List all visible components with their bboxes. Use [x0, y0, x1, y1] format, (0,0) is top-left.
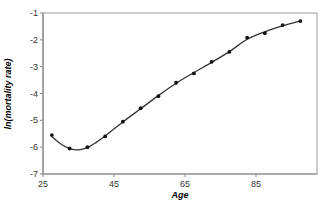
data-point — [210, 60, 214, 64]
y-axis-title: ln(mortality rate) — [3, 58, 13, 129]
x-tick-label: 45 — [109, 179, 119, 189]
data-point — [245, 36, 249, 40]
data-point — [139, 106, 143, 110]
plot-border — [43, 13, 317, 174]
data-point — [298, 19, 302, 23]
data-series — [50, 19, 302, 150]
data-point — [103, 135, 107, 139]
mortality-chart: -7-6-5-4-3-2-1 25456585 Age ln(mortality… — [0, 0, 330, 216]
data-point — [263, 31, 267, 35]
x-tick-label: 65 — [180, 179, 190, 189]
y-tick-label: -2 — [30, 35, 38, 45]
data-point — [121, 120, 125, 124]
y-tick-label: -6 — [30, 142, 38, 152]
y-tick-label: -1 — [30, 8, 38, 18]
data-point — [85, 145, 89, 149]
y-tick-label: -3 — [30, 62, 38, 72]
x-tick-label: 85 — [251, 179, 261, 189]
data-point — [174, 81, 178, 85]
data-point — [281, 23, 285, 27]
data-point — [192, 71, 196, 75]
fitted-curve — [52, 21, 301, 150]
y-tick-label: -4 — [30, 89, 38, 99]
x-axis-title: Age — [170, 190, 188, 200]
y-axis: -7-6-5-4-3-2-1 — [30, 8, 43, 179]
x-tick-label: 25 — [38, 179, 48, 189]
data-point — [227, 50, 231, 54]
data-point — [156, 94, 160, 98]
x-axis: 25456585 — [38, 174, 261, 189]
y-tick-label: -7 — [30, 169, 38, 179]
data-point — [68, 147, 72, 151]
y-tick-label: -5 — [30, 115, 38, 125]
data-point — [50, 133, 54, 137]
plot-frame — [43, 13, 317, 174]
